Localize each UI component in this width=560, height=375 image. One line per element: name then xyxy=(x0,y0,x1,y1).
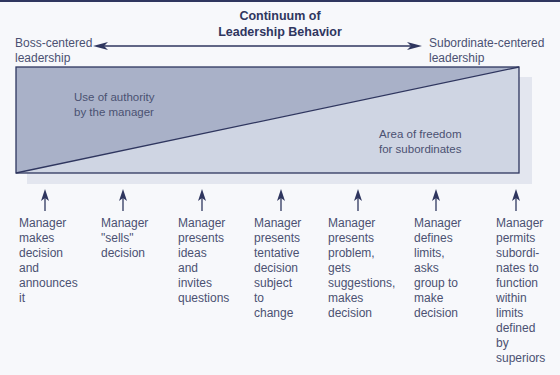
authority-region-label: Use of authority by the manager xyxy=(74,90,155,120)
freedom-label-line-2: for subordinates xyxy=(379,142,461,157)
behavior-defines: Manager defines limits, asks group to ma… xyxy=(414,216,461,321)
behavior-arrows xyxy=(41,189,520,211)
behavior-permits: Manager permits subordi- nates to functi… xyxy=(496,216,545,366)
behavior-consults: Manager presents problem, gets suggestio… xyxy=(328,216,395,321)
behavior-sells: Manager "sells" decision xyxy=(101,216,148,261)
behavior-tentative: Manager presents tentative decision subj… xyxy=(254,216,301,321)
continuum-double-arrow-icon xyxy=(93,42,422,50)
arrow-up-icon xyxy=(198,189,206,211)
authority-label-line-1: Use of authority xyxy=(74,90,155,105)
behavior-tells: Manager makes decision and announces it xyxy=(19,216,78,306)
arrow-up-icon xyxy=(432,189,440,211)
arrow-up-icon xyxy=(41,189,49,211)
behavior-invites: Manager presents ideas and invites quest… xyxy=(178,216,229,306)
freedom-region-label: Area of freedom for subordinates xyxy=(379,127,461,157)
arrow-up-icon xyxy=(354,189,362,211)
authority-label-line-2: by the manager xyxy=(74,105,155,120)
arrow-up-icon xyxy=(119,189,127,211)
arrow-up-icon xyxy=(277,189,285,211)
arrow-up-icon xyxy=(512,189,520,211)
freedom-label-line-1: Area of freedom xyxy=(379,127,461,142)
